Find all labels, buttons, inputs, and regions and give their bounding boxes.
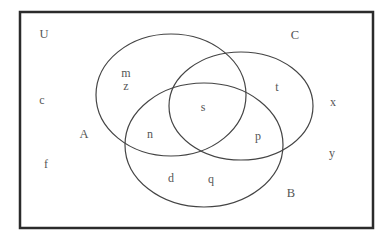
- element-c: c: [39, 94, 44, 106]
- element-t: t: [275, 81, 278, 93]
- element-d: d: [168, 172, 174, 184]
- element-y: y: [329, 147, 335, 159]
- venn-diagram: [0, 0, 392, 237]
- set-b-label: B: [287, 187, 295, 200]
- element-q: q: [208, 173, 214, 185]
- element-n: n: [147, 128, 153, 140]
- set-c-ellipse: [169, 52, 313, 160]
- set-a-ellipse: [96, 34, 246, 156]
- element-m: m: [121, 67, 130, 79]
- element-s: s: [201, 101, 206, 113]
- universal-set-label: U: [39, 28, 48, 41]
- element-x: x: [330, 96, 336, 108]
- element-p: p: [255, 130, 261, 142]
- element-f: f: [44, 158, 48, 170]
- set-a-label: A: [79, 128, 88, 141]
- element-z: z: [123, 80, 128, 92]
- set-c-label: C: [291, 29, 299, 42]
- universal-set-frame: [20, 12, 373, 228]
